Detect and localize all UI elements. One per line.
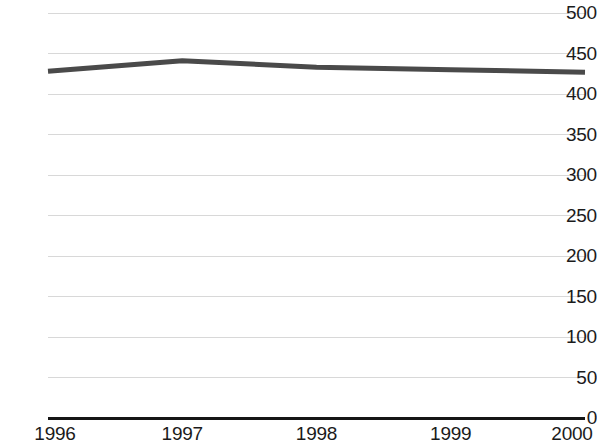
x-tick-label: 1996 [34,424,75,443]
line-chart: 050100150200250300350400450500 199619971… [0,0,597,446]
x-tick-label: 1999 [430,424,471,443]
x-tick-label: 1997 [162,424,203,443]
x-tick-label: 2000 [551,424,592,443]
x-axis: 19961997199819992000 [0,0,597,446]
x-tick-label: 1998 [296,424,337,443]
